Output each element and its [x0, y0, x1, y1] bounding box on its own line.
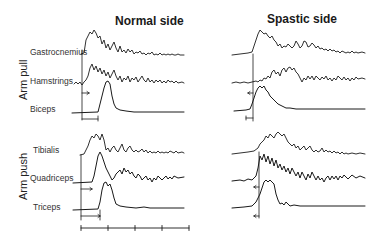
- normal-tibialis-trace: [80, 134, 184, 155]
- spastic-gastrocnemius-trace: [232, 30, 365, 55]
- spastic-triceps-trace: [232, 180, 365, 208]
- normal-pull-onset-marker: [82, 50, 98, 121]
- time-scale-bar: [81, 226, 189, 231]
- normal-hamstrings-trace: [74, 64, 184, 85]
- spastic-hamstrings-trace: [232, 67, 365, 83]
- normal-biceps-trace: [72, 81, 184, 113]
- normal-quadriceps-trace: [73, 152, 184, 183]
- normal-triceps-trace: [73, 182, 184, 210]
- spastic-push-onset-marker: [254, 152, 259, 218]
- spastic-pull-onset-marker: [246, 54, 253, 121]
- spastic-tibialis-trace: [232, 132, 365, 154]
- emg-traces: [0, 0, 372, 242]
- spastic-biceps-trace: [234, 86, 365, 111]
- normal-push-onset-marker: [81, 155, 100, 220]
- spastic-quadriceps-trace: [232, 154, 365, 182]
- normal-gastrocnemius-trace: [81, 30, 184, 55]
